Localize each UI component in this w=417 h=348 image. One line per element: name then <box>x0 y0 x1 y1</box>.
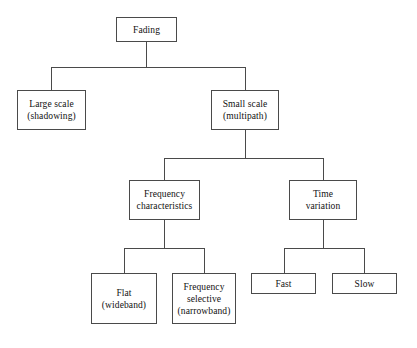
node-frequency-characteristics: Frequencycharacteristics <box>129 180 200 220</box>
node-label-line: characteristics <box>137 200 193 212</box>
connector-freq-char-stem <box>164 220 165 248</box>
connector-fading-stem <box>146 42 147 67</box>
node-label-line: Frequency <box>144 188 185 200</box>
connector-fast-drop <box>284 248 285 273</box>
connector-freq-selective-drop <box>204 248 205 273</box>
node-slow: Slow <box>332 273 397 294</box>
connector-time-var-drop <box>323 158 324 180</box>
connector-time-var-stem <box>323 220 324 248</box>
node-frequency-selective-narrowband: Frequencyselective(narrowband) <box>172 273 236 324</box>
fading-classification-diagram: FadingLarge scale(shadowing)Small scale(… <box>0 0 417 348</box>
connector-level3-right-bus <box>284 248 365 249</box>
node-fast: Fast <box>251 273 316 294</box>
node-label-line: Flat <box>116 287 131 299</box>
connector-large-scale-drop <box>51 67 52 90</box>
connector-small-scale-drop <box>245 67 246 90</box>
connector-level1-bus <box>51 67 246 68</box>
node-label-line: (narrowband) <box>178 305 231 317</box>
connector-freq-char-drop <box>164 158 165 180</box>
node-label-line: Slow <box>355 278 375 290</box>
connector-small-scale-stem <box>245 130 246 158</box>
node-label-line: Large scale <box>29 98 73 110</box>
node-time-variation: Timevariation <box>289 180 357 220</box>
node-label-line: (shadowing) <box>27 110 76 122</box>
node-label-line: (multipath) <box>223 110 267 122</box>
connector-flat-drop <box>124 248 125 273</box>
connector-level3-left-bus <box>124 248 205 249</box>
node-large-scale: Large scale(shadowing) <box>17 90 86 130</box>
connector-slow-drop <box>364 248 365 273</box>
node-small-scale: Small scale(multipath) <box>211 90 279 130</box>
node-label-line: Time <box>313 188 333 200</box>
node-label-line: (wideband) <box>102 299 146 311</box>
node-label-line: Small scale <box>223 98 268 110</box>
connector-level2-bus <box>164 158 324 159</box>
node-flat-wideband: Flat(wideband) <box>91 273 157 324</box>
node-label-line: Fading <box>133 24 160 36</box>
node-fading: Fading <box>116 17 177 42</box>
node-label-line: Frequency <box>184 281 225 293</box>
node-label-line: selective <box>187 293 221 305</box>
node-label-line: Fast <box>275 278 291 290</box>
node-label-line: variation <box>306 200 341 212</box>
